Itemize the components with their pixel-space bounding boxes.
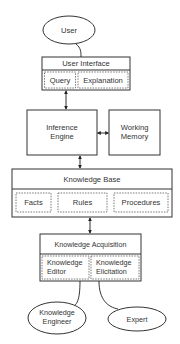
knowledge-engineer-label-2: Engineer	[43, 317, 72, 326]
knowledge-acquisition-label: Knowledge Acquisition	[55, 240, 127, 249]
knowledge-elicitation-label-1: Knowledge	[96, 258, 132, 267]
inference-engine-node: Inference Engine	[27, 110, 97, 155]
facts-label: Facts	[24, 198, 43, 207]
knowledge-base-node: Knowledge Base Facts Rules Procedures	[12, 169, 172, 217]
expert-label: Expert	[127, 315, 148, 324]
inference-engine-label-1: Inference	[46, 123, 78, 132]
ka-to-engineer-connector	[71, 281, 80, 307]
user-to-ui-connector	[76, 44, 81, 57]
user-node: User	[43, 16, 95, 44]
knowledge-editor-label-1: Knowledge	[47, 258, 83, 267]
knowledge-base-label: Knowledge Base	[64, 175, 121, 184]
expert-node: Expert	[108, 307, 166, 331]
procedures-label: Procedures	[122, 198, 161, 207]
working-memory-node: Working Memory	[109, 110, 160, 155]
knowledge-editor-label-2: Editor	[47, 267, 66, 276]
expert-system-diagram: User User Interface Query Explanation In…	[0, 0, 180, 344]
explanation-label: Explanation	[83, 76, 123, 85]
user-label: User	[61, 26, 78, 35]
knowledge-acquisition-node: Knowledge Acquisition Knowledge Editor K…	[40, 234, 141, 281]
query-label: Query	[50, 76, 71, 85]
ka-to-expert-connector	[99, 281, 118, 309]
knowledge-engineer-node: Knowledge Engineer	[28, 302, 86, 334]
user-interface-label: User Interface	[62, 59, 110, 68]
knowledge-elicitation-label-2: Elicitation	[96, 267, 127, 276]
user-interface-node: User Interface Query Explanation	[42, 57, 130, 90]
inference-engine-label-2: Engine	[50, 132, 74, 141]
rules-label: Rules	[73, 198, 93, 207]
working-memory-label-2: Memory	[121, 132, 149, 141]
working-memory-label-1: Working	[121, 123, 149, 132]
knowledge-engineer-label-1: Knowledge	[39, 308, 75, 317]
